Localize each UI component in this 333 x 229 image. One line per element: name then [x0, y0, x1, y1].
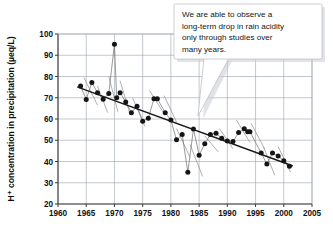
data-point-12 [140, 119, 145, 124]
data-point-7 [114, 95, 119, 100]
data-point-27 [225, 138, 230, 143]
data-point-9 [123, 100, 128, 105]
data-point-24 [208, 132, 213, 137]
data-point-8 [118, 90, 123, 95]
x-tick-labels-group: 1960196519701975198019851990199520002005 [49, 209, 322, 218]
y-tick-label-90: 90 [44, 51, 54, 60]
data-point-18 [174, 137, 179, 142]
y-tick-label-50: 50 [44, 136, 54, 145]
y-tick-label-70: 70 [44, 94, 54, 103]
callout-line-2: only through studies over [182, 33, 273, 42]
data-point-38 [287, 164, 292, 169]
y-axis-title-label: H⁺ concentration in precipitation (µeq/L… [6, 36, 16, 201]
y-tick-label-30: 30 [44, 179, 54, 188]
x-tick-label-1980: 1980 [162, 209, 181, 218]
data-point-16 [163, 110, 168, 115]
short-segment-8 [190, 145, 202, 177]
data-point-13 [146, 116, 151, 121]
callout-line-1: long-term drop in rain acidity [182, 22, 285, 31]
acid-rain-chart-figure: 2030405060708090100 19601965197019751980… [0, 0, 333, 229]
data-point-3 [95, 90, 100, 95]
y-tick-label-60: 60 [44, 115, 54, 124]
y-tick-label-100: 100 [39, 30, 53, 39]
data-point-34 [264, 162, 269, 167]
data-point-33 [259, 151, 264, 156]
data-point-28 [230, 139, 235, 144]
data-point-0 [78, 84, 83, 89]
data-point-6 [112, 42, 117, 47]
data-point-19 [180, 132, 185, 137]
x-tick-label-1975: 1975 [134, 209, 153, 218]
x-tick-label-1965: 1965 [77, 209, 96, 218]
data-point-2 [89, 80, 94, 85]
y-axis-title: H⁺ concentration in precipitation (µeq/L… [6, 36, 16, 201]
data-point-5 [106, 91, 111, 96]
callout-line-3: many years. [182, 45, 226, 54]
annotation-callout: We are able to observe along-term drop i… [174, 4, 325, 119]
x-tick-label-1985: 1985 [190, 209, 209, 218]
data-point-22 [197, 153, 202, 158]
data-point-10 [129, 110, 134, 115]
callout-line-0: We are able to observe a [182, 10, 273, 19]
data-point-26 [219, 136, 224, 141]
x-tick-label-2000: 2000 [275, 209, 294, 218]
data-point-23 [202, 141, 207, 146]
short-segment-12 [251, 123, 265, 149]
y-tick-label-40: 40 [44, 158, 54, 167]
x-tick-label-1995: 1995 [246, 209, 265, 218]
y-tick-labels-group: 2030405060708090100 [39, 30, 53, 209]
data-point-37 [281, 158, 286, 163]
data-point-29 [236, 130, 241, 135]
x-tick-label-2005: 2005 [303, 209, 322, 218]
y-tick-label-80: 80 [44, 73, 54, 82]
x-tick-label-1960: 1960 [49, 209, 68, 218]
x-tick-label-1990: 1990 [218, 209, 237, 218]
data-point-21 [191, 126, 196, 131]
data-point-32 [247, 129, 252, 134]
data-point-11 [135, 104, 140, 109]
data-point-20 [185, 170, 190, 175]
data-point-35 [270, 151, 275, 156]
data-point-17 [168, 118, 173, 123]
y-tick-label-20: 20 [44, 200, 54, 209]
callout-tail [198, 58, 229, 116]
data-point-15 [155, 96, 160, 101]
data-point-25 [214, 131, 219, 136]
short-segment-5 [149, 90, 164, 113]
data-point-4 [101, 97, 106, 102]
data-point-36 [276, 153, 281, 158]
x-tick-label-1970: 1970 [105, 209, 124, 218]
chart-canvas: 2030405060708090100 19601965197019751980… [0, 0, 333, 229]
data-point-1 [84, 97, 89, 102]
